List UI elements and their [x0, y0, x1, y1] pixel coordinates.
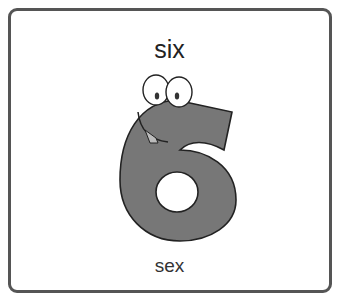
left-pupil: [155, 93, 159, 100]
translated-word: sex: [0, 255, 339, 277]
number-six-character-illustration: [100, 60, 260, 250]
right-eye: [166, 77, 192, 107]
left-eye: [143, 75, 169, 105]
six-hole: [156, 172, 198, 212]
right-pupil: [175, 93, 179, 100]
six-body: [120, 100, 236, 241]
